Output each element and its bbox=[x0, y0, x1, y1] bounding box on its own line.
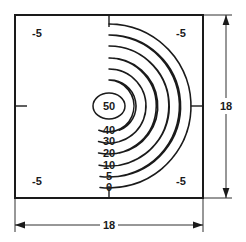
corner-label-bottom-right: -5 bbox=[176, 175, 186, 187]
corner-label-top-right: -5 bbox=[176, 27, 186, 39]
width-dimension: 18 bbox=[15, 198, 203, 232]
contour-label-30: 30 bbox=[103, 135, 115, 147]
contour-label-50: 50 bbox=[103, 100, 115, 112]
height-arrow-bottom bbox=[223, 188, 230, 198]
width-arrow-left bbox=[15, 222, 25, 229]
height-dimension: 18 bbox=[203, 15, 232, 198]
contour-figure: 50 40 30 20 10 5 0 -5 -5 -5 -5 18 bbox=[0, 0, 246, 242]
corner-label-bottom-left: -5 bbox=[32, 175, 42, 187]
width-arrow-right bbox=[193, 222, 203, 229]
height-arrow-top bbox=[223, 15, 230, 25]
contour-label-0: 0 bbox=[106, 181, 112, 193]
contour-diagram-canvas: 50 40 30 20 10 5 0 -5 -5 -5 -5 18 bbox=[0, 0, 246, 242]
contour-label-20: 20 bbox=[103, 147, 115, 159]
height-dimension-label: 18 bbox=[220, 100, 232, 112]
corner-label-top-left: -5 bbox=[32, 27, 42, 39]
width-dimension-label: 18 bbox=[103, 219, 115, 231]
